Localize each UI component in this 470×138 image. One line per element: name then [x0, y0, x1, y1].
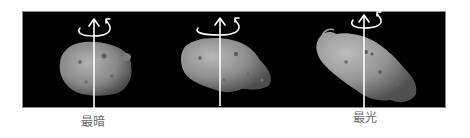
asteroid-view-brightest — [316, 12, 416, 108]
caption-darkest: 最暗 — [81, 115, 105, 129]
asteroid-view-middle — [181, 18, 271, 106]
asteroid-view-darkest — [60, 19, 132, 108]
caption-brightest: 最光 — [353, 111, 377, 125]
asteroid-body — [316, 32, 416, 102]
asteroid-body — [181, 38, 271, 92]
rotation-arrow-icon — [352, 12, 381, 28]
asteroid-body — [60, 42, 132, 96]
asteroid-rotation-diagram — [0, 0, 470, 138]
